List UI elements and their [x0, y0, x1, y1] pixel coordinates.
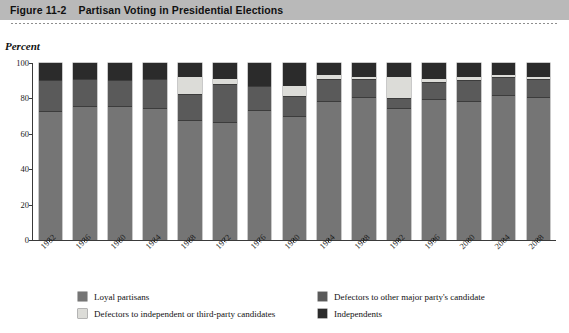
bar-segment-defect_major	[73, 79, 97, 107]
bar-slot	[277, 63, 312, 240]
legend-item-defect_major[interactable]: Defectors to other major party's candida…	[318, 288, 548, 305]
bar-segment-defect_major	[492, 77, 516, 97]
x-axis-label-slot: 1964	[137, 242, 172, 282]
bar-segment-loyal	[73, 107, 97, 240]
figure-header-bar: Figure 11-2 Partisan Voting in President…	[0, 0, 569, 20]
bar-segment-independents	[108, 63, 132, 80]
bar-segment-independents	[352, 63, 376, 77]
bar-segment-defect_major	[248, 86, 272, 111]
bar-segment-loyal	[143, 109, 167, 240]
x-axis-label-slot: 1996	[415, 242, 450, 282]
bar-slot	[172, 63, 207, 240]
x-axis-labels: 1952195619601964196819721976198019841988…	[32, 242, 555, 282]
bar-1960[interactable]	[108, 63, 132, 240]
bar-1972[interactable]	[213, 63, 237, 240]
legend-label: Defectors to independent or third-party …	[94, 309, 275, 319]
bar-segment-loyal	[108, 107, 132, 240]
bar-segment-defect_major	[422, 82, 446, 100]
y-axis-tick-label: 60	[7, 129, 29, 139]
legend-item-defect_third[interactable]: Defectors to independent or third-party …	[78, 305, 308, 322]
bar-segment-loyal	[39, 112, 63, 240]
bar-segment-defect_third	[387, 77, 411, 98]
bar-slot	[68, 63, 103, 240]
legend-swatch-defect_major	[318, 292, 327, 301]
bar-segment-defect_major	[527, 79, 551, 98]
x-axis-label-slot: 2004	[485, 242, 520, 282]
bar-2000[interactable]	[457, 63, 481, 240]
bar-slot	[207, 63, 242, 240]
bar-segment-defect_major	[283, 96, 307, 117]
y-axis-tick-label: 100	[7, 58, 29, 68]
bar-1956[interactable]	[73, 63, 97, 240]
bar-segment-independents	[387, 63, 411, 77]
bar-slot	[242, 63, 277, 240]
bar-segment-independents	[248, 63, 272, 86]
bar-segment-independents	[492, 63, 516, 75]
bar-segment-independents	[39, 63, 63, 80]
bar-1952[interactable]	[39, 63, 63, 240]
bar-1976[interactable]	[248, 63, 272, 240]
bar-slot	[521, 63, 556, 240]
chart-legend: Loyal partisansDefectors to other major …	[78, 288, 548, 322]
bar-segment-defect_third	[283, 86, 307, 96]
bar-segment-loyal	[317, 102, 341, 240]
bar-segment-independents	[422, 63, 446, 79]
bar-1988[interactable]	[352, 63, 376, 240]
x-axis-label-slot: 1992	[381, 242, 416, 282]
figure-number: Figure 11-2	[10, 4, 67, 16]
bar-1968[interactable]	[178, 63, 202, 240]
bar-segment-loyal	[283, 117, 307, 240]
x-axis-label-slot: 1988	[346, 242, 381, 282]
bar-1984[interactable]	[317, 63, 341, 240]
x-axis-label-slot: 1984	[311, 242, 346, 282]
bar-slot	[382, 63, 417, 240]
x-axis-label-slot: 2000	[450, 242, 485, 282]
bar-1980[interactable]	[283, 63, 307, 240]
bar-segment-independents	[213, 63, 237, 79]
bar-1992[interactable]	[387, 63, 411, 240]
bar-segment-loyal	[352, 98, 376, 240]
bar-segment-defect_major	[213, 84, 237, 123]
legend-item-independents[interactable]: Independents	[318, 305, 548, 322]
bar-segment-defect_major	[108, 80, 132, 106]
bar-segment-defect_major	[317, 79, 341, 102]
legend-swatch-loyal	[78, 292, 87, 301]
bar-segment-defect_major	[143, 79, 167, 109]
bar-segment-independents	[457, 63, 481, 77]
bar-2004[interactable]	[492, 63, 516, 240]
bar-slot	[416, 63, 451, 240]
legend-swatch-defect_third	[78, 309, 87, 318]
bar-segment-defect_major	[457, 80, 481, 101]
bar-slot	[347, 63, 382, 240]
x-axis-label-slot: 1980	[276, 242, 311, 282]
y-axis-tick-label: 0	[7, 235, 29, 245]
bar-segment-loyal	[213, 123, 237, 240]
bar-slot	[138, 63, 173, 240]
y-axis-tick-label: 20	[7, 200, 29, 210]
bar-segment-independents	[283, 63, 307, 86]
bar-1996[interactable]	[422, 63, 446, 240]
bar-slot	[103, 63, 138, 240]
bar-slot	[451, 63, 486, 240]
legend-label: Defectors to other major party's candida…	[334, 292, 485, 302]
bar-2008[interactable]	[527, 63, 551, 240]
x-axis-label-slot: 1952	[32, 242, 67, 282]
bar-1964[interactable]	[143, 63, 167, 240]
x-axis-label-slot: 1972	[206, 242, 241, 282]
bar-segment-independents	[527, 63, 551, 77]
bar-segment-loyal	[178, 121, 202, 240]
x-axis-label-slot: 1960	[102, 242, 137, 282]
chart-plot-area: 020406080100	[32, 63, 556, 241]
y-axis-tick-label: 80	[7, 93, 29, 103]
bar-slot	[33, 63, 68, 240]
legend-label: Independents	[334, 309, 382, 319]
legend-item-loyal[interactable]: Loyal partisans	[78, 288, 308, 305]
y-axis-label: Percent	[5, 40, 40, 52]
bar-segment-independents	[73, 63, 97, 79]
bar-segment-independents	[143, 63, 167, 79]
x-axis-label-slot: 1968	[171, 242, 206, 282]
x-axis-label-slot: 1976	[241, 242, 276, 282]
bar-segment-loyal	[422, 100, 446, 240]
legend-swatch-independents	[318, 309, 327, 318]
bar-segment-loyal	[387, 109, 411, 240]
